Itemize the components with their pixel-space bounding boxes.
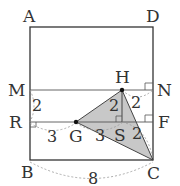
label-g: G — [69, 126, 83, 146]
measure-sc: 2 — [132, 124, 142, 143]
measure-gs: 3 — [95, 126, 105, 145]
label-b: B — [21, 162, 34, 182]
label-h: H — [115, 67, 130, 87]
label-m: M — [8, 80, 25, 100]
measure-rg: 3 — [47, 127, 57, 146]
measure-mr: 2 — [32, 96, 42, 115]
measure-hs: 2 — [109, 96, 119, 115]
label-n: N — [157, 80, 172, 100]
label-a: A — [22, 6, 36, 26]
label-c: C — [147, 163, 160, 183]
point-g — [74, 120, 78, 124]
label-f: F — [158, 112, 170, 132]
label-r: R — [9, 112, 23, 132]
right-angle-mark-n — [145, 83, 153, 90]
label-d: D — [146, 6, 160, 26]
measure-bc: 8 — [88, 169, 98, 186]
point-h — [120, 88, 124, 92]
right-angle-mark-f — [145, 115, 153, 122]
measure-hn: 2 — [131, 93, 141, 112]
label-s: S — [114, 125, 126, 145]
geometry-diagram: A D M N R F B C H G S 2 3 3 2 2 2 8 — [0, 0, 180, 186]
